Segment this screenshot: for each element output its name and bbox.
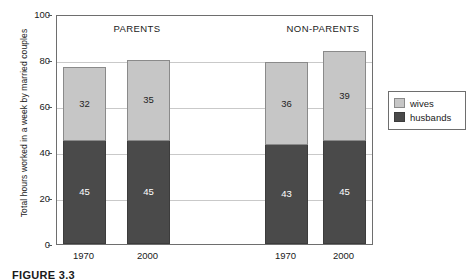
bar-segment-wives[interactable]: 36 xyxy=(265,62,308,145)
legend-item-label: wives xyxy=(410,98,434,109)
legend-item-wives[interactable]: wives xyxy=(394,96,460,110)
y-tick-mark xyxy=(48,15,52,16)
y-tick-label: 20 xyxy=(24,194,50,204)
chart-legend: wives husbands xyxy=(388,91,466,130)
y-tick-label: 100 xyxy=(24,10,50,20)
x-tick-label: 1970 xyxy=(54,250,114,261)
bar-value-label: 32 xyxy=(79,99,90,109)
x-tick-label: 2000 xyxy=(314,250,374,261)
legend-swatch-icon xyxy=(394,112,405,122)
y-tick-label: 60 xyxy=(24,102,50,112)
y-tick-label: 0 xyxy=(24,240,50,250)
figure-container: Total hours worked in a week by married … xyxy=(0,0,475,279)
y-tick-label: 80 xyxy=(24,56,50,66)
bar-non-parents-1970[interactable]: 3643 xyxy=(265,62,308,244)
figure-caption: FIGURE 3.3 xyxy=(12,269,75,279)
bar-segment-husbands[interactable]: 45 xyxy=(63,141,106,245)
bar-value-label: 45 xyxy=(79,187,90,197)
y-tick-mark xyxy=(48,107,52,108)
group-heading-parents: PARENTS xyxy=(67,23,207,34)
bar-segment-wives[interactable]: 32 xyxy=(63,67,106,141)
legend-item-husbands[interactable]: husbands xyxy=(394,110,460,124)
bar-value-label: 45 xyxy=(339,187,350,197)
y-tick-mark xyxy=(48,153,52,154)
bar-value-label: 36 xyxy=(281,99,292,109)
y-tick-label: 40 xyxy=(24,148,50,158)
y-axis-ticks: 020406080100 xyxy=(20,0,50,279)
bar-value-label: 43 xyxy=(281,189,292,199)
bar-segment-husbands[interactable]: 43 xyxy=(265,145,308,244)
bar-segment-husbands[interactable]: 45 xyxy=(323,141,366,245)
y-tick-mark xyxy=(48,245,52,246)
bar-parents-2000[interactable]: 3545 xyxy=(127,60,170,244)
group-heading-non-parents: NON-PARENTS xyxy=(253,23,393,34)
legend-swatch-icon xyxy=(394,98,405,108)
bar-segment-wives[interactable]: 35 xyxy=(127,60,170,141)
plot-area: PARENTSNON-PARENTS3245354536433945 xyxy=(56,15,373,245)
bar-value-label: 45 xyxy=(143,187,154,197)
x-tick-label: 2000 xyxy=(118,250,178,261)
y-tick-mark xyxy=(48,61,52,62)
bar-segment-wives[interactable]: 39 xyxy=(323,51,366,141)
bar-value-label: 35 xyxy=(143,95,154,105)
bar-parents-1970[interactable]: 3245 xyxy=(63,67,106,244)
bar-segment-husbands[interactable]: 45 xyxy=(127,141,170,245)
bar-value-label: 39 xyxy=(339,91,350,101)
bar-non-parents-2000[interactable]: 3945 xyxy=(323,51,366,244)
y-tick-mark xyxy=(48,199,52,200)
x-tick-label: 1970 xyxy=(256,250,316,261)
legend-item-label: husbands xyxy=(410,112,451,123)
